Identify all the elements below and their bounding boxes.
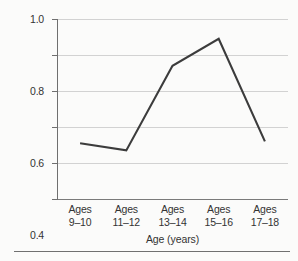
x-tick-label-line1: Ages [161, 203, 184, 215]
x-tick-label-line2: 15–16 [205, 216, 233, 229]
x-tick-label-line2: 13–14 [158, 216, 186, 229]
y-tick-label: 1.0 [30, 13, 44, 24]
x-tick-label: Ages17–18 [251, 203, 279, 229]
x-tick-label-line1: Ages [115, 203, 138, 215]
x-axis-title: Age (years) [57, 233, 288, 246]
x-tick-label: Ages13–14 [158, 203, 186, 229]
x-tick-label-line1: Ages [253, 203, 276, 215]
y-tick-label: 0.6 [30, 157, 44, 168]
y-tick-label: 0.4 [30, 229, 44, 240]
x-axis-tick-labels: Ages9–10Ages11–12Ages13–14Ages15–16Ages1… [57, 203, 288, 233]
x-tick-label: Ages11–12 [113, 203, 140, 229]
x-tick-label-line2: 17–18 [251, 216, 279, 229]
series-line-chart [57, 19, 288, 199]
x-tick-label-line2: 11–12 [113, 216, 140, 229]
figure: Conflicts per minute 0.00.20.40.60.81.0 … [0, 0, 298, 261]
x-tick-label-line2: 9–10 [69, 216, 92, 229]
x-tick-label-line1: Ages [69, 203, 92, 215]
x-tick-label: Ages9–10 [69, 203, 92, 229]
y-tick-label: 0.8 [30, 85, 44, 96]
figure-bottom-rule [14, 251, 290, 252]
series-polyline [80, 39, 265, 151]
x-tick-label: Ages15–16 [205, 203, 233, 229]
x-tick-label-line1: Ages [207, 203, 230, 215]
plot-area: 0.00.20.40.60.81.0 [57, 19, 288, 199]
